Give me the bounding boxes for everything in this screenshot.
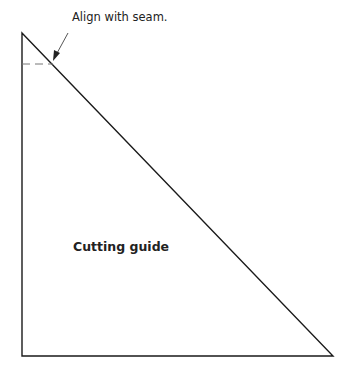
align-annotation: Align with seam.	[72, 10, 168, 24]
arrow-shaft	[56, 33, 68, 55]
diagram-title: Cutting guide	[73, 239, 169, 254]
triangle-pattern-piece	[22, 33, 333, 356]
cutting-guide-diagram	[0, 0, 353, 378]
arrow-head-icon	[53, 50, 60, 61]
